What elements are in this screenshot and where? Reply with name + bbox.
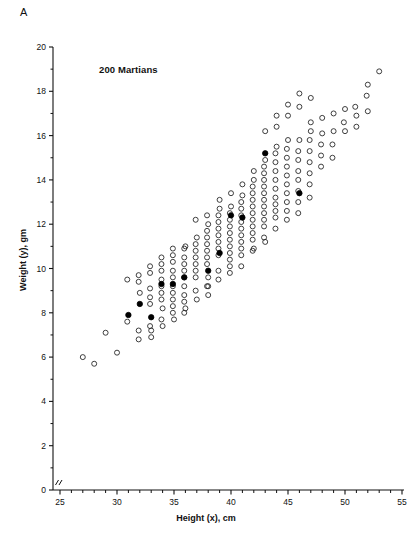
data-point-open [250,211,255,216]
data-point-open [193,268,198,273]
data-point-open [307,195,312,200]
x-tick-label: 25 [55,497,65,507]
data-point-open [307,160,312,165]
data-point-open [182,255,187,260]
data-point-open [297,138,302,143]
chart-annotation: 200 Martians [99,64,158,75]
data-point-open [182,268,187,273]
data-point-filled [137,301,142,306]
figure-panel-a: A 200 Martians 0246810121416182025303540… [0,0,412,544]
data-point-open [193,262,198,267]
data-point-open [284,208,289,213]
data-point-open [273,160,278,165]
data-point-open [262,191,267,196]
data-point-open [341,120,346,125]
data-point-open [262,211,267,216]
data-point-open [239,226,244,231]
data-point-open [148,264,153,269]
data-point-open [159,262,164,267]
data-point-open [92,361,97,366]
data-point-open [262,164,267,169]
data-point-open [274,124,279,129]
data-point-open [319,164,324,169]
data-point-open [217,206,222,211]
y-tick-label: 8 [41,308,46,318]
data-point-filled [149,315,154,320]
data-point-open [353,104,358,109]
data-point-open [365,109,370,114]
data-point-open [239,253,244,258]
scatter-plot: 0246810121416182025303540455055 [0,0,412,544]
data-point-open [330,142,335,147]
data-point-open [170,253,175,258]
data-point-filled [126,312,131,317]
data-point-open [308,120,313,125]
data-point-open [273,186,278,191]
y-tick-label: 2 [41,441,46,451]
data-point-open [262,197,267,202]
data-point-open [240,182,245,187]
data-point-open [284,173,289,178]
data-point-open [170,290,175,295]
x-tick-label: 55 [397,497,407,507]
data-point-open [170,304,175,309]
data-point-open [182,293,187,298]
data-point-open [319,142,324,147]
data-point-open [136,273,141,278]
data-point-open [216,233,221,238]
data-point-open [286,113,291,118]
data-point-open [159,268,164,273]
y-tick-label: 4 [41,396,46,406]
x-tick-label: 40 [226,497,236,507]
y-tick-label: 12 [37,219,47,229]
data-point-filled [217,250,222,255]
x-tick-label: 35 [169,497,179,507]
data-point-open [296,211,301,216]
data-point-open [274,144,279,149]
data-point-open [137,290,142,295]
data-point-open [284,146,289,151]
data-point-open [296,200,301,205]
data-point-open [206,275,211,280]
data-point-open [159,297,164,302]
data-point-filled [182,275,187,280]
data-point-open [239,233,244,238]
panel-label: A [20,6,28,18]
data-point-open [262,171,267,176]
data-point-open [250,231,255,236]
data-point-open [193,255,198,260]
x-axis-title: Height (x), cm [0,513,412,523]
data-point-open [125,277,130,282]
data-point-open [320,131,325,136]
data-point-open [319,153,324,158]
data-point-open [216,239,221,244]
data-point-open [262,224,267,229]
data-point-open [286,102,291,107]
data-point-open [227,251,232,256]
data-point-open [148,301,153,306]
data-point-open [364,93,369,98]
data-point-open [170,268,175,273]
data-point-open [103,330,108,335]
data-point-open [227,224,232,229]
axis-break-mark [56,480,59,485]
data-point-open [239,246,244,251]
data-point-open [148,295,153,300]
data-point-open [206,293,211,298]
data-point-open [284,191,289,196]
data-point-open [205,228,210,233]
axis-break-mark [59,480,62,485]
data-point-open [206,222,211,227]
data-point-open [227,244,232,249]
y-tick-label: 0 [41,485,46,495]
data-point-open [193,248,198,253]
data-point-open [194,235,199,240]
data-point-open [377,69,382,74]
data-point-open [136,279,141,284]
data-point-open [273,177,278,182]
axes: 0246810121416182025303540455055 [37,42,407,507]
data-point-open [229,204,234,209]
data-point-open [182,262,187,267]
data-point-open [205,262,210,267]
data-point-open [159,290,164,295]
